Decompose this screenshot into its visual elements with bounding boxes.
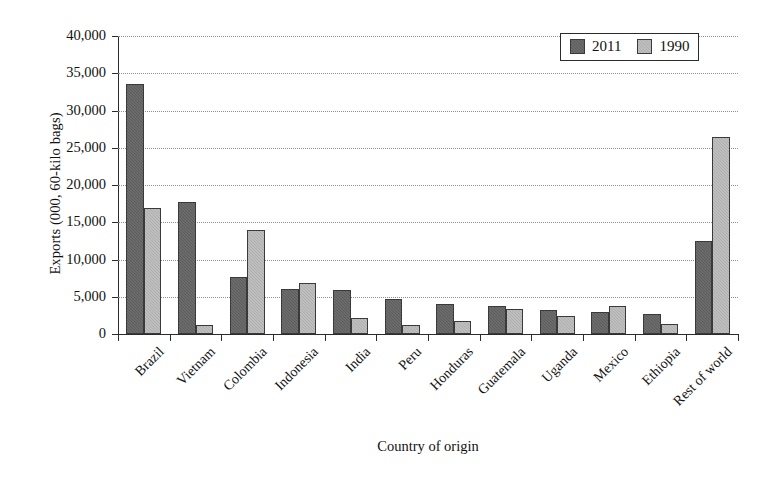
y-axis-tick — [112, 36, 118, 37]
bar-guatemala-2011 — [488, 306, 506, 334]
x-axis-label-colombia: Colombia — [220, 344, 270, 394]
bar-peru-1990 — [402, 325, 420, 334]
bar-peru-2011 — [385, 299, 403, 334]
bar-mexico-2011 — [591, 312, 609, 334]
bar-uganda-1990 — [557, 316, 575, 334]
bar-ethiopia-2011 — [643, 314, 661, 334]
legend: 2011 1990 — [560, 33, 699, 61]
bar-mexico-1990 — [609, 306, 627, 334]
y-axis-tick — [112, 222, 118, 223]
x-axis-tick — [738, 334, 739, 341]
x-axis-label-guatemala: Guatemala — [475, 344, 529, 398]
legend-label-1990: 1990 — [659, 38, 689, 55]
x-axis-title: Country of origin — [118, 438, 738, 455]
bar-india-2011 — [333, 290, 351, 334]
bar-rest-of-world-2011 — [695, 241, 713, 334]
x-axis-tick — [273, 334, 274, 341]
x-axis-label-indonesia: Indonesia — [272, 344, 322, 394]
x-axis-tick — [376, 334, 377, 341]
legend-entry-1990: 1990 — [637, 38, 689, 55]
x-axis-label-mexico: Mexico — [591, 344, 633, 386]
legend-entry-2011: 2011 — [570, 38, 621, 55]
x-axis-label-peru: Peru — [396, 344, 425, 373]
y-axis-label: 5,000 — [26, 289, 106, 304]
x-axis-label-honduras: Honduras — [427, 344, 477, 394]
bar-vietnam-1990 — [196, 325, 214, 334]
gridline — [118, 297, 738, 298]
gridline — [118, 73, 738, 74]
legend-label-2011: 2011 — [592, 38, 621, 55]
y-axis-tick — [112, 260, 118, 261]
x-axis-label-uganda: Uganda — [538, 344, 580, 386]
gridline — [118, 260, 738, 261]
bar-ethiopia-1990 — [661, 324, 679, 334]
y-axis-label: 40,000 — [26, 28, 106, 43]
plot-area — [118, 36, 738, 334]
y-axis-label: 35,000 — [26, 65, 106, 80]
bar-honduras-1990 — [454, 321, 472, 334]
y-axis-tick — [112, 185, 118, 186]
y-axis-label: 25,000 — [26, 140, 106, 155]
x-axis-tick — [325, 334, 326, 341]
gridline — [118, 148, 738, 149]
gridline — [118, 185, 738, 186]
bar-brazil-1990 — [144, 208, 162, 334]
bar-uganda-2011 — [540, 310, 558, 334]
gridline — [118, 111, 738, 112]
y-axis-tick — [112, 297, 118, 298]
x-axis-tick — [583, 334, 584, 341]
y-axis-tick — [112, 148, 118, 149]
x-axis-tick — [635, 334, 636, 341]
bar-rest-of-world-1990 — [712, 137, 730, 334]
bar-colombia-2011 — [230, 277, 248, 334]
bar-guatemala-1990 — [506, 309, 524, 334]
x-axis-tick — [170, 334, 171, 341]
y-axis-label: 30,000 — [26, 103, 106, 118]
legend-swatch-1990 — [637, 39, 652, 54]
y-axis-tick — [112, 111, 118, 112]
gridline — [118, 222, 738, 223]
x-axis-tick — [686, 334, 687, 341]
x-axis-label-vietnam: Vietnam — [174, 344, 219, 389]
x-axis-label-ethiopia: Ethiopia — [639, 344, 684, 389]
bar-indonesia-2011 — [281, 289, 299, 334]
y-axis-label: 20,000 — [26, 177, 106, 192]
x-axis-label-india: India — [342, 344, 374, 376]
x-axis-tick — [428, 334, 429, 341]
bar-brazil-2011 — [126, 84, 144, 334]
bar-vietnam-2011 — [178, 202, 196, 334]
legend-swatch-2011 — [570, 39, 585, 54]
x-axis-tick — [531, 334, 532, 341]
bar-india-1990 — [351, 318, 369, 334]
y-axis-label: 15,000 — [26, 214, 106, 229]
x-axis-label-brazil: Brazil — [132, 344, 168, 380]
x-axis-tick — [118, 334, 119, 341]
bar-chart: Exports (000, 60-kilo bags) 05,00010,000… — [0, 0, 758, 498]
y-axis-label: 0 — [26, 326, 106, 341]
bar-colombia-1990 — [247, 230, 265, 334]
y-axis-tick — [112, 73, 118, 74]
x-axis-tick — [221, 334, 222, 341]
bar-indonesia-1990 — [299, 283, 317, 334]
x-axis-tick — [480, 334, 481, 341]
y-axis-label: 10,000 — [26, 252, 106, 267]
bar-honduras-2011 — [436, 304, 454, 334]
